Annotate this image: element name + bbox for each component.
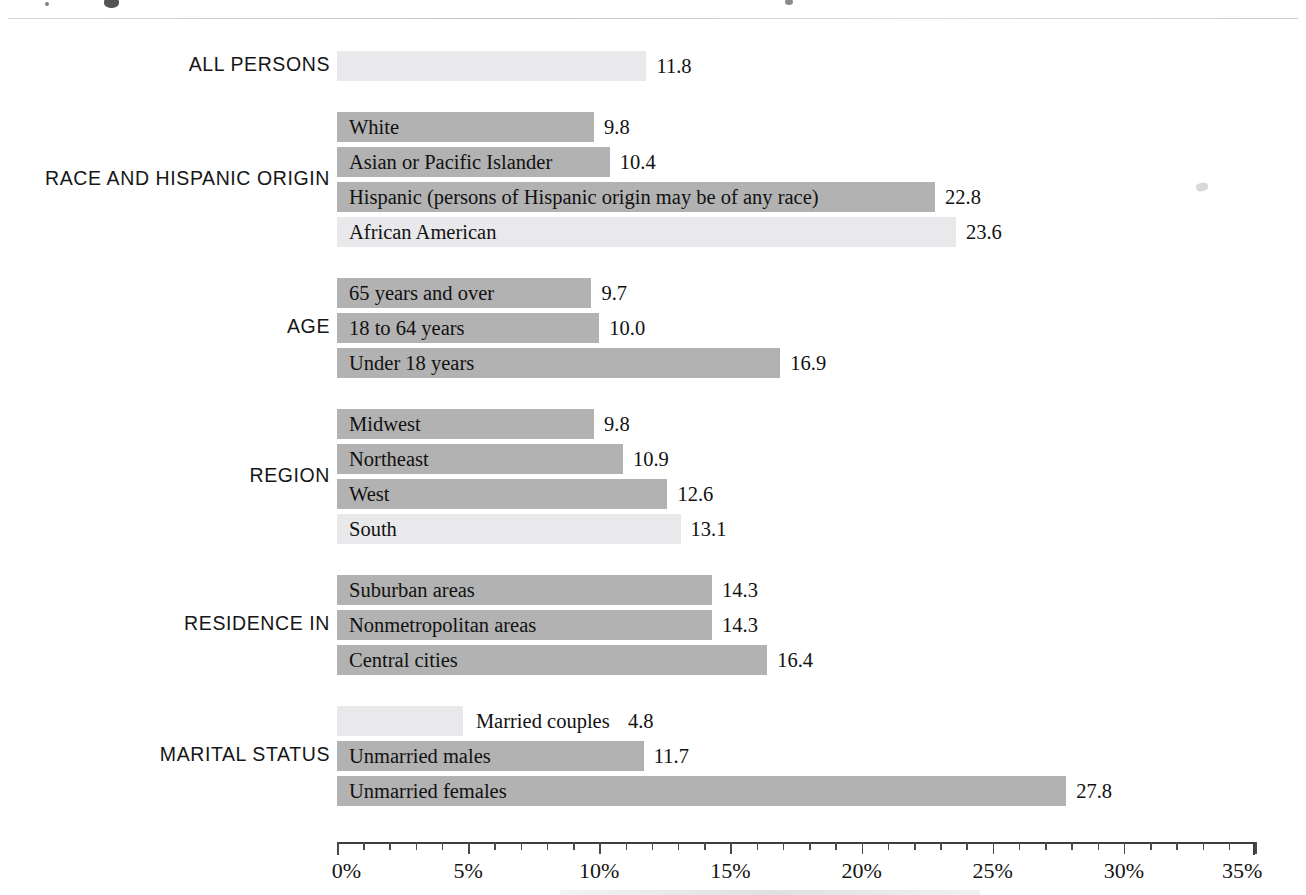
axis-tick-minor (1176, 842, 1178, 850)
axis-tick-label: 25% (973, 858, 1013, 884)
bar-value: 16.4 (777, 645, 813, 675)
bar-label: Central cities (349, 645, 458, 675)
axis-tick-minor (940, 842, 942, 850)
bar-label: 65 years and over (349, 278, 494, 308)
bar-value: 9.8 (604, 409, 630, 439)
axis-tick-major (1255, 842, 1257, 854)
axis-tick-minor (1045, 842, 1047, 850)
bar-value: 10.0 (609, 313, 645, 343)
axis-tick-minor (888, 842, 890, 850)
axis-line (337, 842, 1255, 844)
bar-label: West (349, 479, 389, 509)
axis-tick-major (730, 842, 732, 854)
bar-value: 11.7 (654, 741, 689, 771)
axis-tick-label: 20% (841, 858, 881, 884)
bar-label: Nonmetropolitan areas (349, 610, 536, 640)
axis-tick-minor (547, 842, 549, 850)
axis-tick-minor (783, 842, 785, 850)
axis-tick-minor (966, 842, 968, 850)
bar-value: 12.6 (677, 479, 713, 509)
axis-tick-minor (678, 842, 680, 850)
bar-value: 14.3 (722, 610, 758, 640)
axis-tick-major (337, 842, 339, 854)
bar-label: Midwest (349, 409, 421, 439)
axis-tick-minor (1203, 842, 1205, 850)
axis-tick-minor (363, 842, 365, 850)
bar-value: 11.8 (656, 51, 691, 81)
bar[interactable] (337, 51, 646, 81)
figure-page: 0%5%10%15%20%25%30%35% ALL PERSONS11.8RA… (0, 0, 1306, 895)
bar-label: Married couples (476, 706, 610, 736)
bar-value: 27.8 (1076, 776, 1112, 806)
axis-tick-minor (1150, 842, 1152, 850)
axis-tick-minor (809, 842, 811, 850)
bar-group: REGIONMidwest9.8Northeast10.9West12.6Sou… (0, 409, 1306, 544)
axis-tick-minor (494, 842, 496, 850)
bar-group: RESIDENCE INSuburban areas14.3Nonmetropo… (0, 575, 1306, 675)
bar-label: Unmarried males (349, 741, 491, 771)
axis-tick-major (599, 842, 601, 854)
bar-value: 10.9 (633, 444, 669, 474)
bar-value: 23.6 (966, 217, 1002, 247)
axis-tick-minor (757, 842, 759, 850)
axis-tick-minor (1019, 842, 1021, 850)
axis-tick-minor (835, 842, 837, 850)
axis-tick-major (1124, 842, 1126, 854)
bar-label: White (349, 112, 399, 142)
group-label: AGE (0, 315, 330, 338)
bar-value: 16.9 (790, 348, 826, 378)
axis-tick-minor (1071, 842, 1073, 850)
axis-tick-minor (521, 842, 523, 850)
bar-label: South (349, 514, 397, 544)
bar[interactable] (337, 706, 463, 736)
bar-group: ALL PERSONS11.8 (0, 51, 1306, 81)
horizontal-bar-chart: 0%5%10%15%20%25%30%35% ALL PERSONS11.8RA… (0, 0, 1306, 895)
bar-value: 13.1 (691, 514, 727, 544)
group-label: REGION (0, 464, 330, 487)
axis-tick-minor (442, 842, 444, 850)
axis-tick-minor (389, 842, 391, 850)
axis-tick-label: 5% (453, 858, 482, 884)
group-label: RACE AND HISPANIC ORIGIN (0, 167, 330, 190)
group-label: RESIDENCE IN (0, 612, 330, 635)
bar-group: AGE65 years and over9.718 to 64 years10.… (0, 278, 1306, 378)
bar-value: 9.8 (604, 112, 630, 142)
axis-tick-label: 30% (1104, 858, 1144, 884)
bar-label: Asian or Pacific Islander (349, 147, 552, 177)
bar-value: 10.4 (620, 147, 656, 177)
bar-label: Under 18 years (349, 348, 474, 378)
bar-label: Unmarried females (349, 776, 507, 806)
bar-label: Northeast (349, 444, 429, 474)
bar-group: MARITAL STATUSMarried couples4.8Unmarrie… (0, 706, 1306, 806)
group-label: MARITAL STATUS (0, 743, 330, 766)
axis-tick-label: 0% (332, 858, 361, 884)
bar-value: 22.8 (945, 182, 981, 212)
axis-tick-major (862, 842, 864, 854)
axis-tick-minor (626, 842, 628, 850)
axis-tick-minor (652, 842, 654, 850)
axis-tick-label: 35% (1222, 858, 1262, 884)
axis-tick-label: 10% (579, 858, 619, 884)
axis-tick-major (468, 842, 470, 854)
axis-tick-minor (573, 842, 575, 850)
bar-value: 14.3 (722, 575, 758, 605)
bar-label: African American (349, 217, 496, 247)
bar-group: RACE AND HISPANIC ORIGINWhite9.8Asian or… (0, 112, 1306, 247)
bar-label: Hispanic (persons of Hispanic origin may… (349, 182, 819, 212)
axis-tick-minor (416, 842, 418, 850)
axis-tick-minor (914, 842, 916, 850)
bar-value: 4.8 (628, 706, 654, 736)
group-label: ALL PERSONS (0, 53, 330, 76)
bar-value: 9.7 (601, 278, 627, 308)
axis-tick-minor (1098, 842, 1100, 850)
axis-tick-label: 15% (710, 858, 750, 884)
axis-tick-major (993, 842, 995, 854)
axis-tick-minor (704, 842, 706, 850)
bar-label: 18 to 64 years (349, 313, 465, 343)
axis-tick-minor (1229, 842, 1231, 850)
bar-label: Suburban areas (349, 575, 475, 605)
